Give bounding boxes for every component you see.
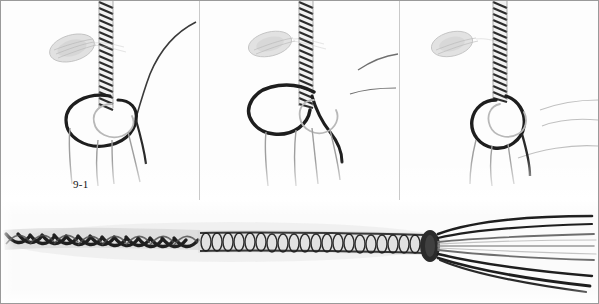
panel-9-4-illustration bbox=[0, 200, 599, 304]
panel-9-2: 9-2 bbox=[200, 0, 400, 200]
panel-9-1: 9-1 bbox=[0, 0, 200, 200]
wrapped-body bbox=[99, 0, 113, 110]
braided-cord-left bbox=[4, 234, 200, 247]
panel-9-3: 9-3 bbox=[400, 0, 599, 200]
panel-9-1-illustration bbox=[0, 0, 200, 200]
whipped-section bbox=[198, 233, 424, 253]
instruction-figure: 9-1 bbox=[0, 0, 599, 304]
panel-9-4: 9-4 bbox=[0, 200, 599, 304]
panel-row: 9-1 bbox=[0, 0, 599, 200]
panel-9-1-caption: 9-1 bbox=[73, 178, 89, 190]
wrapped-body bbox=[493, 0, 507, 102]
panel-9-3-illustration bbox=[400, 0, 599, 200]
panel-9-2-illustration bbox=[200, 0, 400, 200]
